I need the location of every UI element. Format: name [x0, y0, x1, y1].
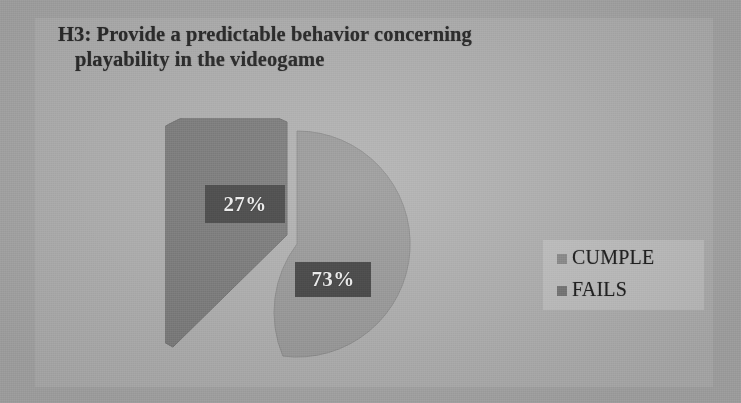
chart-title-line-2: playability in the videogame: [58, 47, 518, 72]
legend-label-cumple: CUMPLE: [572, 246, 654, 269]
pie-data-label-fails: 27%: [205, 185, 285, 223]
legend-item-cumple[interactable]: CUMPLE: [557, 246, 654, 269]
pie-data-label-fails-text: 27%: [224, 192, 267, 217]
legend-item-fails[interactable]: FAILS: [557, 278, 627, 301]
pie-data-label-cumple: 73%: [295, 262, 371, 297]
legend-swatch-cumple-icon: [557, 254, 567, 264]
pie-chart: [165, 118, 415, 368]
legend-swatch-fails-icon: [557, 286, 567, 296]
pie-slice-fails[interactable]: [165, 118, 287, 347]
legend-label-fails: FAILS: [572, 278, 627, 301]
chart-title: H3: Provide a predictable behavior conce…: [58, 22, 518, 72]
pie-slice-cumple[interactable]: [274, 131, 410, 357]
chart-legend: CUMPLE FAILS: [543, 240, 704, 310]
chart-title-line-1: H3: Provide a predictable behavior conce…: [58, 22, 518, 47]
pie-data-label-cumple-text: 73%: [312, 267, 355, 292]
pie-slices-svg: [165, 118, 415, 368]
